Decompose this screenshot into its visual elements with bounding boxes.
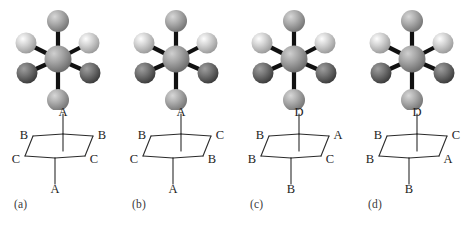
bond-upper-left	[269, 134, 299, 136]
newman-label-bottom: B	[287, 182, 295, 196]
model-area-a	[0, 4, 118, 110]
bond-upper-left	[387, 134, 417, 136]
panel-caption-a: (a)	[14, 198, 27, 210]
newman-label-upper-right: C	[216, 128, 224, 142]
panel-a: ABBCCA(a)	[0, 0, 118, 229]
atom-upper-left	[16, 33, 37, 54]
panel-b: ABCCBA(b)	[118, 0, 236, 229]
atom-upper-right	[315, 33, 336, 54]
atom-bottom	[401, 89, 423, 110]
newman-label-lower-left: B	[366, 152, 374, 166]
panel-caption-d: (d)	[368, 198, 382, 210]
newman-label-lower-right: C	[326, 152, 334, 166]
newman-projection: DBABCB	[236, 108, 354, 196]
atom-center	[399, 46, 426, 73]
bond-lower-left	[379, 156, 409, 158]
bond-upper-right	[299, 134, 329, 136]
newman-label-top: D	[412, 108, 421, 119]
newman-area-c: DBABCB	[236, 108, 354, 196]
atom-lower-right	[434, 63, 455, 84]
newman-label-lower-right: A	[443, 152, 452, 166]
newman-label-bottom: A	[168, 182, 177, 196]
panel-caption-c: (c)	[250, 198, 263, 210]
panel-d: DBCBAB(d)	[354, 0, 471, 229]
ball-and-stick-model	[354, 4, 471, 110]
ball-and-stick-model	[118, 4, 236, 110]
newman-label-lower-left: C	[130, 152, 138, 166]
newman-area-b: ABCCBA	[118, 108, 236, 196]
atom-lower-right	[198, 63, 219, 84]
atom-upper-left	[370, 33, 391, 54]
atom-top	[47, 10, 69, 32]
atom-lower-left	[371, 63, 392, 84]
atom-upper-right	[79, 33, 100, 54]
newman-label-upper-left: B	[20, 128, 28, 142]
panel-c: DBABCB(c)	[236, 0, 354, 229]
bond-lower-right	[291, 156, 321, 158]
atom-lower-right	[316, 63, 337, 84]
bond-lower-right	[409, 156, 439, 158]
newman-label-top: D	[294, 108, 303, 119]
panel-caption-b: (b)	[132, 198, 146, 210]
atom-lower-left	[253, 63, 274, 84]
newman-label-upper-right: C	[452, 128, 460, 142]
bond-lower-left	[261, 156, 291, 158]
model-area-c	[236, 4, 354, 110]
newman-label-upper-right: A	[333, 128, 342, 142]
atom-lower-left	[17, 63, 38, 84]
newman-label-top: A	[176, 108, 185, 119]
bond-lower-left	[25, 156, 55, 158]
atom-center	[163, 46, 190, 73]
model-area-b	[118, 4, 236, 110]
bond-lower-right	[55, 156, 85, 158]
newman-projection: ABCCBA	[118, 108, 236, 196]
atom-top	[401, 10, 423, 32]
newman-label-lower-right: B	[208, 152, 216, 166]
newman-label-bottom: A	[50, 182, 59, 196]
newman-label-upper-left: B	[256, 128, 264, 142]
atom-lower-right	[80, 63, 101, 84]
newman-area-d: DBCBAB	[354, 108, 471, 196]
newman-label-upper-right: B	[98, 128, 106, 142]
bond-lower-left	[143, 156, 173, 158]
atom-bottom	[165, 89, 187, 110]
newman-label-lower-right: C	[90, 152, 98, 166]
atom-upper-right	[197, 33, 218, 54]
newman-label-bottom: B	[405, 182, 413, 196]
atom-upper-left	[252, 33, 273, 54]
newman-projection: ABBCCA	[0, 108, 118, 196]
newman-projection-figure: ABBCCA(a)ABCCBA(b)DBABCB(c)DBCBAB(d)	[0, 0, 471, 229]
atom-center	[281, 46, 308, 73]
model-area-d	[354, 4, 471, 110]
ball-and-stick-model	[236, 4, 354, 110]
newman-area-a: ABBCCA	[0, 108, 118, 196]
atom-top	[283, 10, 305, 32]
atom-bottom	[47, 89, 69, 110]
atom-lower-left	[135, 63, 156, 84]
bond-upper-right	[417, 134, 447, 136]
bond-upper-right	[63, 134, 93, 136]
newman-label-upper-left: B	[138, 128, 146, 142]
newman-label-top: A	[58, 108, 67, 119]
atom-upper-left	[134, 33, 155, 54]
newman-label-lower-left: B	[248, 152, 256, 166]
newman-label-upper-left: B	[374, 128, 382, 142]
newman-projection: DBCBAB	[354, 108, 471, 196]
atom-center	[45, 46, 72, 73]
bond-upper-right	[181, 134, 211, 136]
atom-bottom	[283, 89, 305, 110]
bond-upper-left	[33, 134, 63, 136]
bond-lower-right	[173, 156, 203, 158]
newman-label-lower-left: C	[12, 152, 20, 166]
ball-and-stick-model	[0, 4, 118, 110]
atom-upper-right	[433, 33, 454, 54]
bond-upper-left	[151, 134, 181, 136]
atom-top	[165, 10, 187, 32]
